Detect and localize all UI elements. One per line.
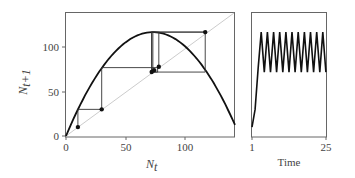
y-tick-100: 100 bbox=[43, 41, 60, 53]
chart-canvas: 0 50 100 0 50 100 Nt Nt+1 1 25 Time bbox=[0, 0, 355, 178]
x-tick-50: 50 bbox=[121, 141, 133, 153]
x-tick-100: 100 bbox=[177, 141, 194, 153]
x-axis-label: Nt bbox=[145, 157, 158, 174]
svg-text:Nt+1: Nt+1 bbox=[16, 69, 33, 95]
time-tick-1: 1 bbox=[249, 141, 255, 153]
time-axis-label: Time bbox=[278, 156, 301, 168]
y-tick-50: 50 bbox=[48, 86, 60, 98]
right-plot-frame bbox=[252, 13, 327, 138]
y-axis-label: Nt+1 bbox=[16, 69, 33, 95]
y-tick-0: 0 bbox=[54, 130, 60, 142]
x-tick-0: 0 bbox=[63, 141, 69, 153]
time-tick-25: 25 bbox=[321, 141, 333, 153]
time-series-line bbox=[252, 32, 326, 127]
recruitment-curve bbox=[66, 32, 235, 136]
